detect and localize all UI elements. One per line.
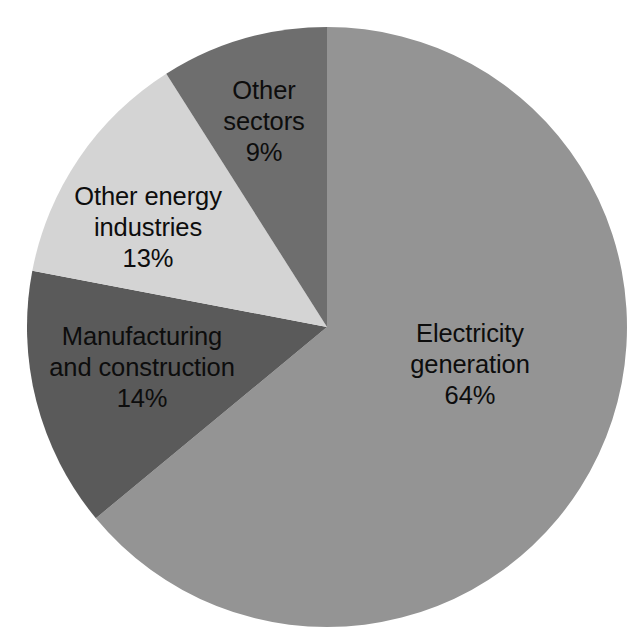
pie-slice-group xyxy=(27,27,627,627)
pie-chart-canvas xyxy=(0,0,641,644)
pie-chart: Electricity generation 64% Manufacturing… xyxy=(0,0,641,644)
